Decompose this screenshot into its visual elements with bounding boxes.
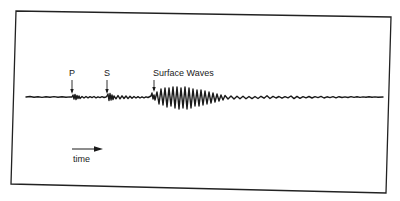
s-arrival-marker (105, 80, 108, 94)
time-axis-label: time (73, 155, 90, 164)
p-arrival-marker (70, 80, 73, 94)
down-arrow-icon (105, 89, 108, 94)
seismogram-diagram (0, 0, 400, 201)
figure-frame (11, 11, 391, 193)
surface-waves-label: Surface Waves (153, 69, 214, 78)
time-axis-arrow (72, 146, 103, 151)
right-arrow-icon (94, 146, 103, 151)
seismogram-trace (26, 87, 383, 109)
s-wave-label: S (104, 69, 110, 78)
down-arrow-icon (152, 87, 155, 92)
p-wave-label: P (69, 69, 75, 78)
surface-waves-arrival-marker (152, 80, 155, 92)
down-arrow-icon (70, 89, 73, 94)
